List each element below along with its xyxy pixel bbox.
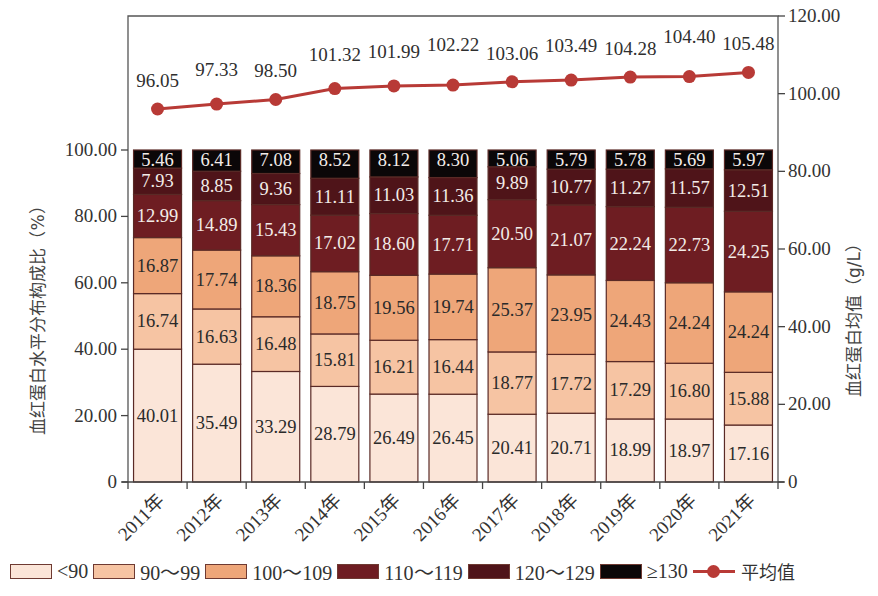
average-point — [328, 82, 341, 95]
right-tick-label: 40.00 — [788, 316, 831, 337]
segment-value-label: 17.72 — [550, 374, 592, 394]
segment-value-label: 17.29 — [609, 380, 651, 400]
legend-item: 120～129 — [468, 557, 595, 586]
bar-2018年: 20.7117.7223.9521.0710.775.79 — [547, 150, 595, 482]
left-tick-label: 40.00 — [74, 338, 117, 359]
x-tick-label: 2016年 — [409, 490, 464, 545]
average-point — [210, 98, 223, 111]
legend-item: ≥130 — [600, 560, 688, 583]
legend-swatch — [93, 564, 135, 579]
segment-value-label: 20.71 — [550, 438, 592, 458]
legend-item: 110～119 — [337, 557, 463, 586]
average-value-label: 101.99 — [368, 41, 420, 62]
segment-value-label: 25.37 — [491, 300, 533, 320]
segment-value-label: 18.97 — [669, 441, 711, 461]
segment-value-label: 7.08 — [260, 150, 292, 170]
bar-2019年: 18.9917.2924.4322.2411.275.78 — [606, 150, 654, 482]
average-point — [151, 103, 164, 116]
segment-value-label: 15.88 — [728, 389, 770, 409]
average-value-label: 96.05 — [136, 70, 179, 91]
segment-value-label: 17.16 — [728, 444, 770, 464]
left-tick-label: 80.00 — [74, 205, 117, 226]
segment-value-label: 11.11 — [315, 187, 355, 207]
segment-value-label: 21.07 — [550, 230, 592, 250]
segment-value-label: 18.77 — [491, 373, 533, 393]
segment-value-label: 14.89 — [196, 215, 238, 235]
segment-value-label: 24.24 — [728, 322, 770, 342]
legend-item-average: 平均值 — [693, 558, 795, 584]
legend-swatch — [600, 564, 642, 579]
segment-value-label: 11.57 — [669, 178, 710, 198]
segment-value-label: 26.45 — [432, 428, 474, 448]
segment-value-label: 20.50 — [491, 224, 533, 244]
average-point — [683, 70, 696, 83]
segment-value-label: 40.01 — [137, 406, 179, 426]
segment-value-label: 6.41 — [200, 150, 232, 170]
x-tick-label: 2020年 — [645, 490, 700, 545]
segment-value-label: 7.93 — [141, 171, 173, 191]
segment-value-label: 16.74 — [137, 311, 179, 331]
segment-value-label: 12.51 — [728, 181, 770, 201]
segment-value-label: 19.56 — [373, 298, 415, 318]
bar-2013年: 33.2916.4818.3615.439.367.08 — [252, 150, 300, 482]
segment-value-label: 5.46 — [141, 150, 173, 170]
segment-value-label: 17.71 — [432, 235, 474, 255]
right-tick-label: 0 — [788, 471, 798, 492]
bar-2021年: 17.1615.8824.2424.2512.515.97 — [724, 150, 772, 482]
average-value-label: 104.28 — [604, 38, 656, 59]
x-tick-label: 2012年 — [172, 490, 227, 545]
average-point — [506, 75, 519, 88]
average-value-label: 101.32 — [309, 44, 361, 65]
segment-value-label: 8.12 — [378, 150, 410, 170]
x-tick-label: 2014年 — [290, 490, 345, 545]
legend-label: 110～119 — [384, 557, 463, 586]
right-tick-label: 60.00 — [788, 238, 831, 259]
x-tick-label: 2015年 — [350, 490, 405, 545]
x-tick-label: 2011年 — [114, 490, 169, 545]
legend-item: 90～99 — [93, 557, 200, 586]
segment-value-label: 8.30 — [437, 150, 469, 170]
x-tick-label: 2013年 — [231, 490, 286, 545]
left-tick-label: 20.00 — [74, 405, 117, 426]
line-with-dot-icon — [693, 564, 735, 579]
legend-label: 100～109 — [252, 557, 332, 586]
segment-value-label: 16.87 — [137, 256, 179, 276]
segment-value-label: 24.43 — [609, 311, 651, 331]
segment-value-label: 8.52 — [319, 150, 351, 170]
left-tick-label: 60.00 — [74, 272, 117, 293]
chart-canvas: 40.0116.7416.8712.997.935.4635.4916.6317… — [0, 0, 878, 596]
segment-value-label: 17.74 — [196, 270, 238, 290]
average-value-label: 102.22 — [427, 34, 479, 55]
bar-2016年: 26.4516.4419.7417.7111.368.30 — [429, 150, 477, 482]
bar-2015年: 26.4916.2119.5618.6011.038.12 — [370, 150, 418, 482]
segment-value-label: 10.77 — [550, 177, 592, 197]
segment-value-label: 5.78 — [614, 150, 646, 170]
segment-value-label: 16.63 — [196, 327, 238, 347]
segment-value-label: 18.36 — [255, 276, 297, 296]
segment-value-label: 9.36 — [260, 179, 292, 199]
segment-value-label: 24.25 — [728, 242, 770, 262]
segment-value-label: 22.24 — [609, 234, 651, 254]
legend-swatch — [468, 564, 510, 579]
segment-value-label: 11.27 — [610, 178, 651, 198]
right-tick-label: 120.00 — [788, 5, 840, 26]
bar-2017年: 20.4118.7725.3720.509.895.06 — [488, 150, 536, 482]
legend-label: ≥130 — [647, 560, 688, 583]
segment-value-label: 18.99 — [609, 440, 651, 460]
segment-value-label: 17.02 — [314, 233, 356, 253]
right-axis-title: 血红蛋白均值（g/L） — [844, 235, 864, 397]
segment-value-label: 35.49 — [196, 413, 238, 433]
segment-value-label: 23.95 — [550, 305, 592, 325]
legend-swatch — [10, 564, 52, 579]
segment-value-label: 8.85 — [200, 176, 232, 196]
average-point — [624, 71, 637, 84]
x-tick-label: 2021年 — [704, 490, 759, 545]
legend: <9090～99100～109110～119120～129≥130平均值 — [10, 556, 800, 586]
average-point — [269, 93, 282, 106]
average-point — [387, 79, 400, 92]
bar-2014年: 28.7915.8118.7517.0211.118.52 — [311, 150, 359, 482]
x-tick-label: 2018年 — [527, 490, 582, 545]
right-tick-label: 100.00 — [788, 83, 840, 104]
bar-2011年: 40.0116.7416.8712.997.935.46 — [134, 150, 182, 482]
segment-value-label: 24.24 — [669, 313, 711, 333]
